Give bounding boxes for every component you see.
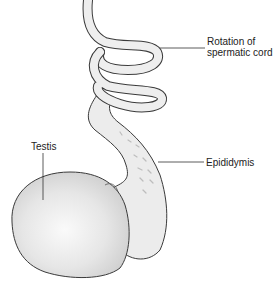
testis-label: Testis	[31, 141, 57, 152]
rotation-label-line2: spermatic cord	[207, 47, 273, 58]
testis-shape	[12, 172, 129, 278]
rotation-label-line1: Rotation of	[207, 36, 273, 47]
epididymis-label: Epididymis	[206, 157, 254, 168]
spermatic-cord	[88, 0, 163, 107]
rotation-label: Rotation of spermatic cord	[207, 36, 273, 58]
